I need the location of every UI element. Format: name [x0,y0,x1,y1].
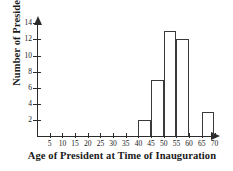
y-tick-label: 8 [20,68,32,76]
y-tick-6 [33,88,41,89]
histogram-figure: Number of Presidents 2468101214 51015202… [0,0,233,171]
x-tick-60 [189,133,190,138]
histogram-bar-50-55 [164,31,177,136]
x-tick-5 [50,133,51,138]
x-tick-20 [88,133,89,138]
y-tick-label: 6 [20,84,32,92]
y-tick-10 [33,56,41,57]
x-tick-15 [75,133,76,138]
plot-area: 2468101214 510152025303540455055606570 [0,0,233,171]
y-tick-label: 2 [20,116,32,124]
y-tick-4 [33,104,41,105]
y-tick-14 [33,23,41,24]
y-tick-label: 14 [20,19,32,27]
x-tick-30 [113,133,114,138]
histogram-bar-45-50 [151,80,164,136]
histogram-bar-40-45 [138,120,151,136]
y-tick-8 [33,72,41,73]
x-tick-35 [126,133,127,138]
x-tick-70 [215,133,216,138]
x-tick-10 [62,133,63,138]
y-tick-12 [33,39,41,40]
y-tick-2 [33,120,41,121]
x-axis-title: Age of President at Time of Inauguration [16,150,228,161]
y-tick-label: 10 [20,52,32,60]
y-tick-label: 4 [20,100,32,108]
y-tick-label: 12 [20,35,32,43]
histogram-bar-55-60 [176,39,189,136]
histogram-bar-65-70 [202,112,215,136]
x-tick-label: 70 [207,140,223,148]
x-tick-25 [100,133,101,138]
